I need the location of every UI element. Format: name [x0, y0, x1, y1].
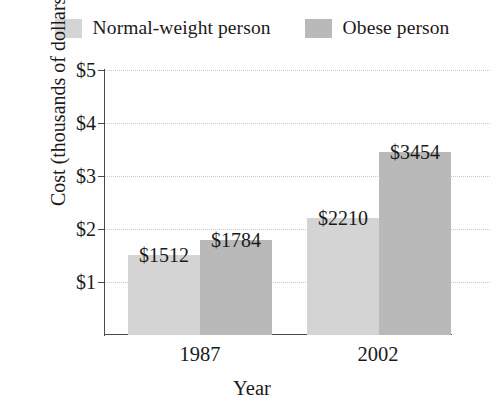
y-tick-label-1: $1 [38, 272, 96, 292]
legend-label-normal-weight: Normal-weight person [93, 18, 271, 38]
y-tick-label-5: $5 [38, 60, 96, 80]
chart-legend: Normal-weight person Obese person [0, 12, 504, 44]
bar-label-2002-obese: $3454 [364, 142, 466, 162]
bar-1987-normal-weight [128, 255, 200, 335]
gridline-4 [105, 123, 490, 124]
bar-label-1987-obese: $1784 [185, 230, 287, 250]
x-tick-label-1987: 1987 [150, 344, 250, 365]
bar-2002-normal-weight [307, 218, 379, 335]
x-axis-title: Year [0, 378, 504, 399]
y-tick-label-4: $4 [38, 113, 96, 133]
bar-chart-figure: Normal-weight person Obese person Cost (… [0, 0, 504, 411]
legend-item-obese-person: Obese person [305, 18, 450, 38]
plot-area: $1512 $1784 $2210 $3454 [105, 70, 490, 335]
bar-2002-obese [379, 152, 451, 335]
x-tick-label-2002: 2002 [328, 344, 428, 365]
legend-swatch-obese-icon [305, 19, 332, 38]
legend-item-normal-weight-person: Normal-weight person [55, 18, 271, 38]
y-tick-label-2: $2 [38, 219, 96, 239]
y-tick-label-3: $3 [38, 166, 96, 186]
bar-1987-obese [200, 240, 272, 335]
gridline-5 [105, 70, 490, 71]
legend-label-obese: Obese person [343, 18, 450, 38]
